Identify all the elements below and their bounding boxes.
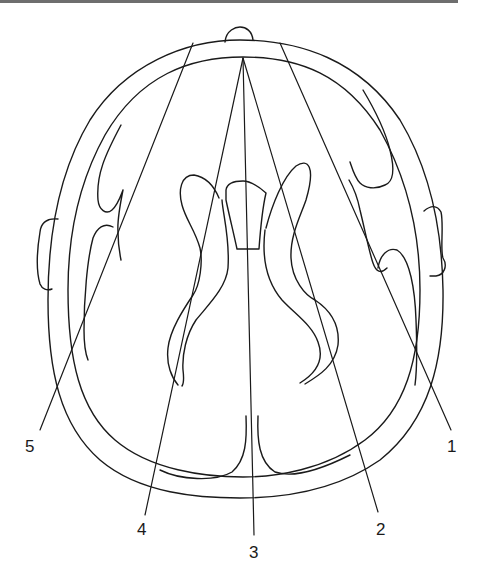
label-1: 1 [447,438,456,455]
label-2: 2 [376,521,385,538]
label-3: 3 [249,544,258,561]
leader-line-1 [280,43,451,430]
right-lateral-fissure-upper [350,90,393,188]
leader-line-2 [243,58,378,512]
right-lateral-ventricle [266,163,338,384]
left-lateral-ventricle-inner [182,200,228,386]
left-temporal-lobe-shape [84,225,113,360]
label-5: 5 [25,438,34,455]
head-cross-section-diagram [0,0,480,582]
right-occipital-horn [258,416,350,474]
outer-scalp-contour [48,40,443,498]
left-ear-shape [37,219,58,290]
leader-line-3 [243,58,254,535]
left-lateral-fissure-shape [98,125,123,260]
label-4: 4 [137,521,146,538]
right-lateral-ventricle-inner [264,230,320,383]
